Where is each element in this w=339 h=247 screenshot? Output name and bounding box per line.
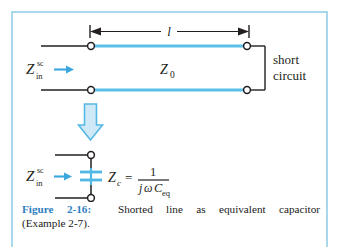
zin-bottom-superscript: sc <box>37 166 44 175</box>
node-capacitor-bottom <box>88 195 95 202</box>
node-load-top <box>244 43 251 50</box>
equivalence-arrow-down <box>79 104 103 140</box>
caption-first-line: Figure 2-16: Shorted line as equivalent … <box>22 202 320 216</box>
caption-second-line: (Example 2-7). <box>22 216 320 230</box>
zc-base: Z <box>108 170 116 185</box>
equation-equals: = <box>125 170 132 185</box>
equation-denominator-j: j <box>137 181 143 195</box>
input-arrow-top-head <box>66 65 74 73</box>
input-direction-arrow-top <box>54 65 74 73</box>
frame-right-rule <box>326 11 328 247</box>
z0-subscript: 0 <box>170 70 175 80</box>
figure-caption: Figure 2-16: Shorted line as equivalent … <box>22 202 320 230</box>
down-arrow-shape <box>79 104 103 140</box>
node-load-bottom <box>244 87 251 94</box>
equation-denominator-omega: ω <box>144 181 152 195</box>
length-dimension: l <box>90 24 249 39</box>
dimension-arrowhead-left <box>90 27 101 35</box>
input-arrow-bottom-head <box>64 172 72 180</box>
z0-base: Z <box>160 62 168 77</box>
input-impedance-label-top: Z sc in <box>26 59 44 81</box>
termination-label-line2: circuit <box>273 68 307 83</box>
equation-numerator: 1 <box>150 165 156 179</box>
zin-top-subscript: in <box>36 71 43 81</box>
termination-label: short circuit <box>273 52 307 83</box>
termination-label-line1: short <box>273 52 299 67</box>
equation-denominator-c-subscript: eq <box>162 188 171 198</box>
node-input-bottom <box>88 87 95 94</box>
circuit-diagram: l Z 0 Z sc in <box>12 12 326 202</box>
dimension-arrowhead-right <box>238 27 249 35</box>
zin-bottom-base: Z <box>26 168 35 184</box>
caption-main-text: Shorted line as equivalent capacitor <box>118 203 320 215</box>
zin-top-superscript: sc <box>37 59 44 68</box>
figure-container: l Z 0 Z sc in <box>0 0 339 247</box>
input-impedance-label-bottom: Z sc in <box>26 166 44 188</box>
capacitor-impedance-equation: Z c = 1 j ω C eq <box>108 165 171 198</box>
characteristic-impedance-label: Z 0 <box>160 62 175 80</box>
zin-top-base: Z <box>26 61 35 77</box>
short-circuit-bridge <box>249 46 265 90</box>
node-capacitor-top <box>88 152 95 159</box>
length-label: l <box>167 24 171 39</box>
figure-number-label: Figure 2-16: <box>22 203 91 215</box>
node-input-top <box>88 43 95 50</box>
zin-bottom-subscript: in <box>36 178 43 188</box>
input-direction-arrow-bottom <box>54 172 72 180</box>
zc-subscript: c <box>117 178 121 188</box>
